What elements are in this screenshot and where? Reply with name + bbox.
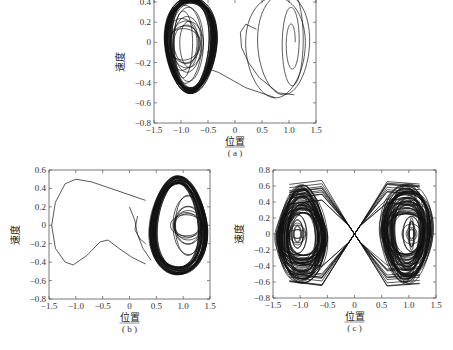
y-tick-label: −0.4	[254, 261, 271, 271]
panel-caption: ( c )	[347, 323, 362, 333]
panel-c: −1.5−1.0−0.500.51.01.50.80.60.40.20−0.2−…	[233, 165, 442, 333]
y-tick-label: 0.2	[259, 213, 270, 223]
y-tick-label: 0.4	[140, 0, 152, 7]
x-tick-label: 0	[127, 301, 132, 311]
panel-caption: ( a )	[228, 148, 243, 158]
trajectory	[52, 176, 208, 275]
trajectory	[164, 0, 309, 98]
trajectory	[275, 180, 434, 286]
x-tick-label: 1.5	[310, 125, 322, 135]
y-tick-label: 0.6	[259, 181, 271, 191]
y-tick-label: −0.6	[135, 98, 152, 108]
y-tick-label: 0.4	[259, 197, 271, 207]
x-tick-label: −1.0	[173, 125, 190, 135]
y-axis-label: 速度	[114, 52, 126, 72]
x-axis-label: 位置	[345, 310, 365, 322]
x-tick-label: −0.5	[319, 300, 336, 310]
x-tick-label: −1.0	[68, 301, 85, 311]
y-tick-label: −0.2	[135, 58, 151, 68]
y-axis-label: 速度	[233, 224, 245, 244]
x-tick-label: 0.5	[256, 125, 268, 135]
y-tick-label: −0.8	[30, 294, 47, 304]
x-tick-label: −0.5	[95, 301, 112, 311]
y-tick-label: 0	[266, 229, 271, 239]
y-tick-label: 0	[147, 37, 152, 47]
y-tick-label: −0.2	[30, 239, 46, 249]
y-tick-label: −0.6	[30, 276, 47, 286]
x-tick-label: 0.5	[151, 301, 163, 311]
x-tick-label: −1.0	[292, 300, 309, 310]
x-tick-label: 1.0	[403, 300, 415, 310]
y-tick-label: 0.6	[35, 165, 47, 175]
x-axis-label: 位置	[225, 135, 245, 147]
y-tick-label: 0	[42, 220, 47, 230]
y-tick-label: −0.6	[254, 277, 271, 287]
x-tick-label: 0	[233, 125, 238, 135]
x-tick-label: −0.5	[200, 125, 217, 135]
y-tick-label: −0.2	[254, 245, 270, 255]
x-axis-label: 位置	[120, 311, 140, 323]
y-tick-label: −0.8	[254, 293, 271, 303]
y-tick-label: 0.8	[259, 165, 271, 175]
x-tick-label: 1.0	[178, 301, 190, 311]
x-tick-label: 1.0	[283, 125, 295, 135]
figure: −1.5−1.0−0.500.51.01.50.40.20−0.2−0.4−0.…	[0, 0, 453, 350]
y-tick-label: −0.4	[135, 78, 152, 88]
x-tick-label: 0.5	[376, 300, 388, 310]
y-tick-label: 0.4	[35, 183, 47, 193]
x-tick-label: 1.5	[430, 300, 442, 310]
x-tick-label: 0	[352, 300, 357, 310]
panel-caption: ( b )	[122, 324, 137, 334]
panel-a: −1.5−1.0−0.500.51.01.50.40.20−0.2−0.4−0.…	[114, 0, 322, 158]
y-tick-label: 0.2	[140, 17, 151, 27]
y-tick-label: −0.8	[135, 118, 152, 128]
x-tick-label: 1.5	[204, 301, 216, 311]
panel-b: −1.5−1.0−0.500.51.01.50.60.40.20−0.2−0.4…	[9, 165, 216, 334]
y-tick-label: 0.2	[35, 202, 46, 212]
y-axis-label: 速度	[9, 225, 21, 245]
y-tick-label: −0.4	[30, 257, 47, 267]
